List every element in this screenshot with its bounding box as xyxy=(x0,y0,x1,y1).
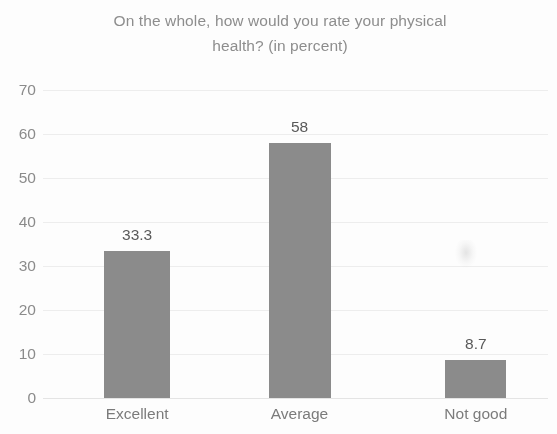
x-axis-tick-label: Average xyxy=(230,405,370,423)
bar-not-good[interactable] xyxy=(445,360,506,398)
y-axis-tick-label: 10 xyxy=(0,345,36,363)
bar-value-label: 58 xyxy=(260,118,340,136)
bar-average[interactable] xyxy=(269,143,331,398)
y-axis-tick-label: 20 xyxy=(0,301,36,319)
bar-chart: On the whole, how would you rate your ph… xyxy=(0,0,557,434)
bar-value-label: 8.7 xyxy=(436,335,516,353)
x-axis-tick-label: Not good xyxy=(406,405,546,423)
gridline xyxy=(43,90,548,91)
bar-value-label: 33.3 xyxy=(97,226,177,244)
x-axis-tick-label: Excellent xyxy=(67,405,207,423)
y-axis-tick-label: 40 xyxy=(0,213,36,231)
chart-title: On the whole, how would you rate your ph… xyxy=(70,8,490,58)
y-axis-tick-label: 60 xyxy=(0,125,36,143)
y-axis-tick-label: 70 xyxy=(0,81,36,99)
gridline xyxy=(43,398,548,399)
bar-excellent[interactable] xyxy=(104,251,170,398)
y-axis-tick-label: 30 xyxy=(0,257,36,275)
y-axis-tick-label: 0 xyxy=(0,389,36,407)
y-axis-tick-label: 50 xyxy=(0,169,36,187)
